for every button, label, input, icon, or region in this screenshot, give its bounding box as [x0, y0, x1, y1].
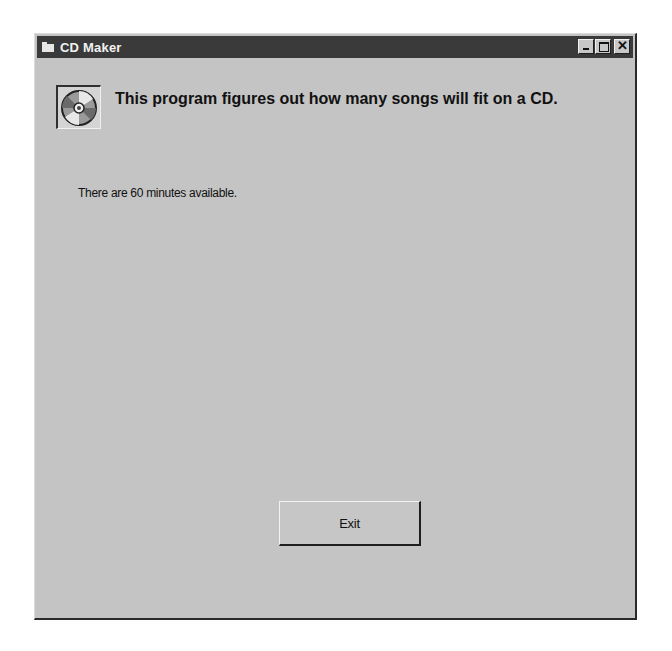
- minimize-button[interactable]: [578, 39, 594, 54]
- close-icon: ✕: [615, 38, 629, 53]
- close-button[interactable]: ✕: [614, 39, 630, 54]
- minimize-icon: [583, 48, 589, 50]
- window-controls: ✕: [577, 39, 630, 54]
- window-title: CD Maker: [60, 40, 122, 55]
- folder-icon[interactable]: [42, 42, 54, 52]
- cd-maker-window: CD Maker ✕ This program figures out how …: [34, 33, 637, 620]
- cd-disc-icon: [56, 85, 101, 129]
- maximize-icon: [599, 42, 609, 52]
- maximize-button[interactable]: [595, 39, 611, 54]
- exit-button[interactable]: Exit: [279, 501, 421, 546]
- program-description: This program figures out how many songs …: [115, 90, 558, 108]
- minutes-available-label: There are 60 minutes available.: [78, 186, 237, 200]
- title-bar[interactable]: CD Maker ✕: [37, 36, 633, 58]
